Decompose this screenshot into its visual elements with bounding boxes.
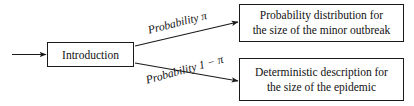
node-epidemic-line-1: Deterministic description for [255,65,388,80]
flowchart-diagram: Introduction Probability distribution fo… [0,0,414,106]
node-introduction-label: Introduction [62,49,119,61]
node-epidemic-outcome: Deterministic description for the size o… [239,58,404,101]
node-introduction: Introduction [47,42,134,67]
node-epidemic-line-2: the size of the epidemic [267,80,376,95]
node-minor-outbreak-line-1: Probability distribution for [260,8,383,23]
node-minor-outbreak-line-2: the size of the minor outbreak [253,23,391,38]
node-minor-outbreak-outcome: Probability distribution for the size of… [239,4,404,42]
